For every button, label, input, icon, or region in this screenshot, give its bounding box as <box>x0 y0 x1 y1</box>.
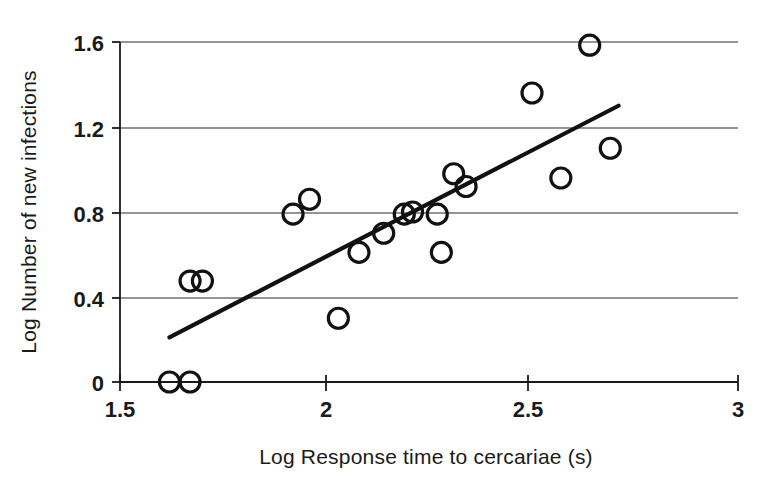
x-tick-label-1-5: 1.5 <box>105 397 136 422</box>
data-point <box>431 242 451 262</box>
y-tick-label-1-2: 1.2 <box>73 117 104 142</box>
data-point <box>192 271 212 291</box>
chart-canvas: 1.6 1.2 0.8 0.4 0 1.5 2 2.5 3 Log Respon… <box>0 0 784 481</box>
gridlines <box>120 42 738 298</box>
y-axis-tick-labels: 1.6 1.2 0.8 0.4 0 <box>73 31 104 396</box>
data-point <box>427 204 447 224</box>
data-point <box>551 168 571 188</box>
scatter-plot-figure: 1.6 1.2 0.8 0.4 0 1.5 2 2.5 3 Log Respon… <box>0 0 784 481</box>
regression-line <box>169 106 618 338</box>
y-axis-title: Log Number of new infections <box>17 70 40 353</box>
y-tick-label-0: 0 <box>92 371 104 396</box>
y-tick-label-0-8: 0.8 <box>73 202 104 227</box>
data-point <box>349 242 369 262</box>
data-point <box>300 189 320 209</box>
data-point <box>522 83 542 103</box>
x-tick-label-3: 3 <box>732 397 744 422</box>
data-points-layer <box>159 35 620 392</box>
y-tick-label-0-4: 0.4 <box>73 287 104 312</box>
y-tick-label-1-6: 1.6 <box>73 31 104 56</box>
x-tick-label-2-5: 2.5 <box>513 397 544 422</box>
y-axis-ticks <box>112 42 120 382</box>
x-axis-tick-labels: 1.5 2 2.5 3 <box>105 397 744 422</box>
data-point <box>580 35 600 55</box>
data-point <box>444 164 464 184</box>
data-point <box>328 308 348 328</box>
data-point <box>283 204 303 224</box>
x-axis-title: Log Response time to cercariae (s) <box>259 445 593 468</box>
x-tick-label-2: 2 <box>320 397 332 422</box>
data-point <box>600 138 620 158</box>
